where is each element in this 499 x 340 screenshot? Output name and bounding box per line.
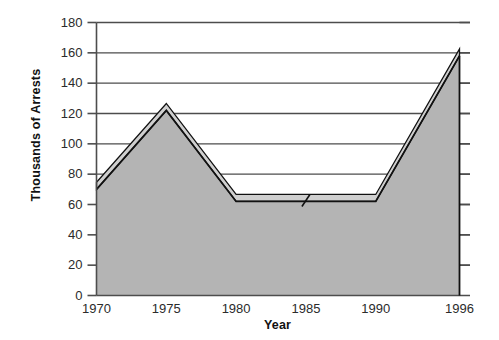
- x-tick-label: 1975: [136, 302, 196, 315]
- x-tick-label: 1996: [430, 302, 490, 315]
- y-tick-label: 80: [37, 167, 83, 180]
- x-tick-label: 1985: [276, 302, 336, 315]
- x-tick-label: 1980: [206, 302, 266, 315]
- y-tick-label: 100: [37, 137, 83, 150]
- area-series-group: [97, 49, 460, 296]
- chart-container: Thousands of Arrests Year 02040608010012…: [0, 0, 499, 340]
- y-tick-label: 60: [37, 198, 83, 211]
- y-tick-label: 160: [37, 46, 83, 59]
- y-tick-label: 120: [37, 107, 83, 120]
- y-tick-label: 20: [37, 258, 83, 271]
- y-tick-label: 180: [37, 16, 83, 29]
- x-tick-label: 1970: [67, 302, 127, 315]
- right-tick-marks-group: [460, 23, 471, 266]
- y-tick-label: 140: [37, 76, 83, 89]
- x-tick-label: 1990: [346, 302, 406, 315]
- y-tick-label: 40: [37, 228, 83, 241]
- y-tick-label: 0: [37, 289, 83, 302]
